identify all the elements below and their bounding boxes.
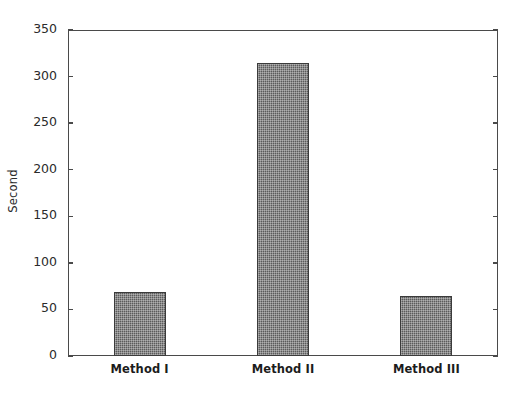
y-axis-tick-label: 100 bbox=[33, 254, 57, 269]
y-axis-tick-mark bbox=[68, 262, 73, 263]
y-axis-tick-mark bbox=[68, 169, 73, 170]
y-axis-label: Second bbox=[0, 0, 26, 393]
y-axis-tick-mark-right bbox=[493, 216, 498, 217]
bar-chart-figure: Second 050100150200250300350 Method IMet… bbox=[0, 0, 522, 393]
x-axis-tick-label: Method II bbox=[252, 362, 315, 376]
y-axis-tick-mark bbox=[68, 309, 73, 310]
y-axis-tick-label: 200 bbox=[33, 161, 57, 176]
bar bbox=[400, 296, 452, 356]
y-axis-tick-mark-right bbox=[493, 122, 498, 123]
bar bbox=[257, 63, 309, 356]
y-axis-tick-label: 50 bbox=[41, 300, 57, 315]
x-axis-tick-label: Method I bbox=[111, 362, 169, 376]
y-axis-label-text: Second bbox=[6, 169, 20, 213]
y-axis-tick-mark-right bbox=[493, 29, 498, 30]
y-axis-tick-label: 0 bbox=[49, 347, 57, 362]
bar bbox=[114, 292, 166, 356]
y-axis-tick-label: 300 bbox=[33, 68, 57, 83]
y-axis-tick-mark-right bbox=[493, 262, 498, 263]
y-axis-tick-mark-right bbox=[493, 169, 498, 170]
y-axis-tick-label: 350 bbox=[33, 21, 57, 36]
y-axis-tick-label: 150 bbox=[33, 207, 57, 222]
y-axis-tick-mark bbox=[68, 29, 73, 30]
y-axis-tick-mark bbox=[68, 355, 73, 356]
y-axis-tick-mark bbox=[68, 122, 73, 123]
y-axis-tick-mark-right bbox=[493, 309, 498, 310]
x-axis-tick-label: Method III bbox=[393, 362, 460, 376]
y-axis-tick-mark-right bbox=[493, 355, 498, 356]
y-axis-tick-label: 250 bbox=[33, 114, 57, 129]
y-axis-tick-mark-right bbox=[493, 76, 498, 77]
y-axis-tick-mark bbox=[68, 76, 73, 77]
y-axis-tick-mark bbox=[68, 216, 73, 217]
